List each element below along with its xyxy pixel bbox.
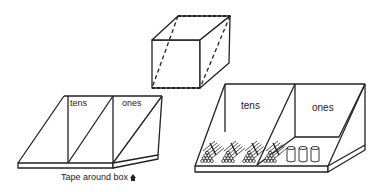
right-tray-label-tens: tens [241, 100, 260, 111]
right-tray-slant-1 [195, 84, 225, 166]
caption-arrow-stem [131, 177, 135, 181]
stick-bundle [222, 141, 245, 163]
left-tray-label-tens: tens [70, 98, 88, 108]
left-tray-slant-1 [18, 96, 64, 163]
cups [287, 147, 319, 163]
right-tray-ones-slant-back [339, 84, 365, 137]
right-tray-divider-slant [257, 84, 295, 165]
cube-front-face [152, 40, 200, 88]
right-tray [195, 84, 365, 172]
stick-bundles [201, 141, 287, 163]
left-tray-base-front [18, 163, 113, 168]
stick-bundle [243, 141, 266, 163]
cup [287, 147, 295, 163]
left-tray-label-ones: ones [122, 98, 142, 108]
cube [152, 16, 230, 88]
left-tray-base-side [113, 155, 158, 168]
right-tray-base-front [195, 166, 328, 172]
left-tray-caption: Tape around box [61, 172, 129, 182]
right-tray-label-ones: ones [312, 102, 334, 113]
stick-bundle [201, 141, 224, 163]
cup [311, 147, 319, 163]
left-tray-right-edge [158, 96, 162, 155]
right-tray-base-side [328, 145, 365, 172]
cup [299, 147, 307, 163]
diagram: tens ones Tape around box tens ones [0, 0, 385, 192]
